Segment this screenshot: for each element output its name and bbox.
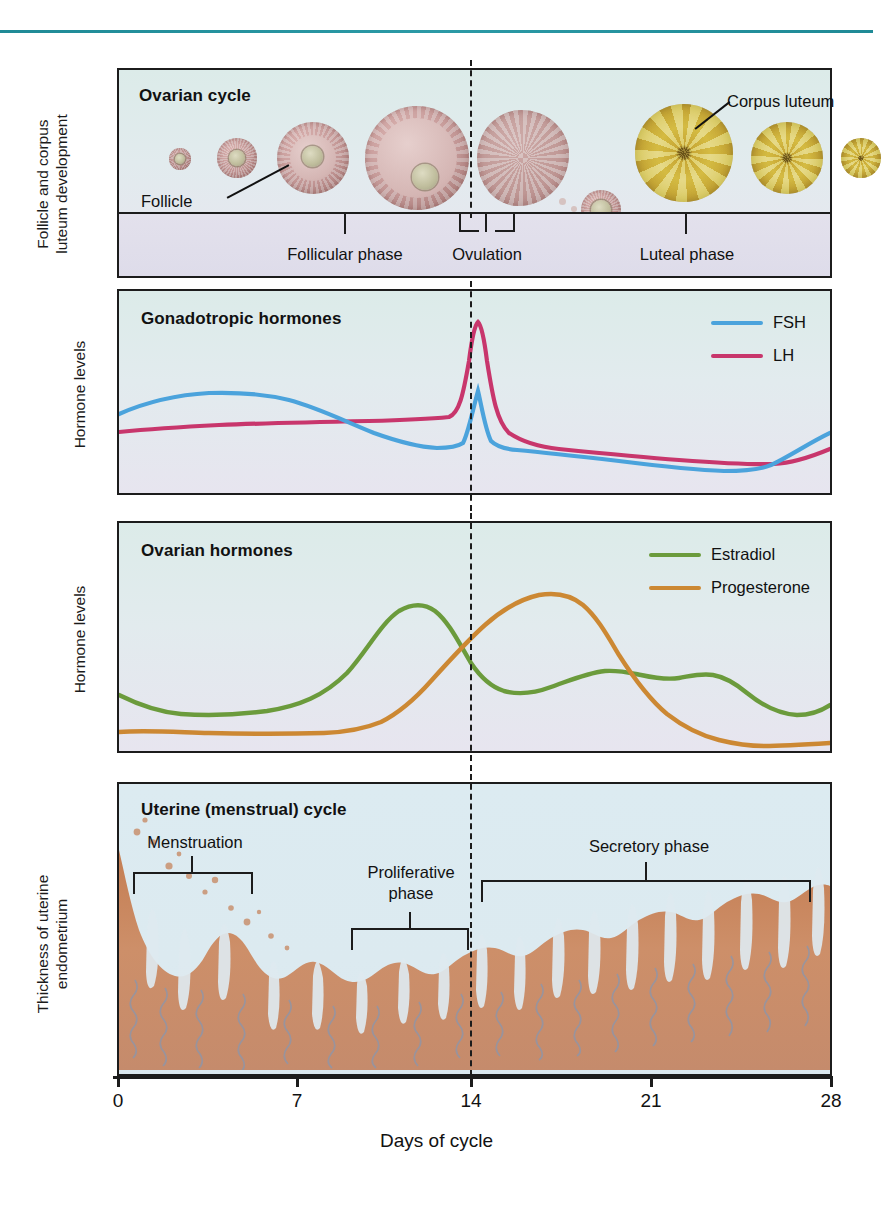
- ovarian-hormones-legend: Estradiol Progesterone: [649, 545, 810, 611]
- ovulation-dashed-line-panel1: [470, 60, 472, 218]
- bracket-menstruation-right-end: [251, 872, 253, 894]
- bracket-secretory-left-end: [481, 880, 483, 902]
- uterine-phase-label-proliferative-line2: phase: [347, 883, 475, 904]
- uterine-phase-label-secretory: Secretory phase: [551, 836, 747, 857]
- legend-item-progesterone: Progesterone: [649, 578, 810, 597]
- y-axis-label-panel1-line2: luteum development: [52, 89, 71, 279]
- x-tick-label-21: 21: [629, 1090, 673, 1112]
- ovulation-debris-1: [559, 198, 566, 205]
- legend-label-fsh: FSH: [773, 313, 806, 332]
- corpus-albicans: [841, 138, 881, 178]
- y-axis-label-panel4-line1: Thickness of uterine: [33, 844, 52, 1044]
- endometrium-svg: [119, 780, 830, 1070]
- panel-gonadotropic-hormones: Gonadotropic hormones FSH LH: [117, 289, 832, 495]
- callout-follicle-label: Follicle: [141, 192, 192, 211]
- corpus-luteum-stage-2: [751, 122, 823, 194]
- uterine-phase-label-menstruation: Menstruation: [125, 832, 265, 853]
- endometrium-illustration: [119, 780, 830, 1074]
- ovulation-tick: [485, 214, 487, 232]
- x-tick-7: [296, 1076, 299, 1087]
- x-tick-28: [830, 1076, 833, 1087]
- bracket-menstruation: [133, 872, 253, 894]
- oocyte: [229, 150, 245, 166]
- gonadotropic-legend: FSH LH: [711, 313, 806, 379]
- legend-swatch-estradiol: [649, 553, 701, 557]
- bracket-proliferative-left-end: [351, 928, 353, 950]
- x-tick-label-14: 14: [449, 1090, 493, 1112]
- panel-uterine-cycle: Uterine (menstrual) cycle: [117, 782, 832, 1076]
- bracket-proliferative-right-end: [467, 928, 469, 950]
- phase-label-follicular: Follicular phase: [237, 245, 453, 264]
- bracket-menstruation-bar: [133, 872, 253, 874]
- follicular-phase-tick: [344, 214, 346, 234]
- y-axis-label-panel3-text: Hormone levels: [70, 545, 89, 735]
- y-axis-label-panel4-line2: endometrium: [52, 844, 71, 1044]
- oocyte: [302, 146, 323, 167]
- ovulation-dashed-line-panel4: [470, 774, 472, 1076]
- bracket-proliferative: [351, 928, 469, 950]
- legend-label-estradiol: Estradiol: [711, 545, 775, 564]
- x-tick-0: [117, 1076, 120, 1087]
- bracket-secretory-bar: [481, 880, 811, 882]
- estradiol-curve: [119, 605, 830, 715]
- panel-uterine-title: Uterine (menstrual) cycle: [141, 800, 347, 820]
- uterine-phase-label-proliferative-line1: Proliferative: [347, 862, 475, 883]
- y-axis-label-panel1: Follicle and corpus luteum development: [33, 89, 71, 279]
- y-axis-label-panel4: Thickness of uterine endometrium: [33, 844, 71, 1044]
- ovulation-dashed-line-panel2: [470, 281, 472, 511]
- callout-corpus-luteum-label: Corpus luteum: [727, 92, 834, 111]
- y-axis-label-panel2-text: Hormone levels: [70, 300, 89, 490]
- follicle-stage-3: [277, 122, 349, 194]
- ovulation-bracket-left: [459, 212, 479, 232]
- legend-item-estradiol: Estradiol: [649, 545, 810, 564]
- follicle-stage-2: [217, 138, 257, 178]
- y-axis-label-panel3: Hormone levels: [70, 545, 89, 735]
- y-axis-label-panel1-line1: Follicle and corpus: [33, 89, 52, 279]
- x-axis-line: [117, 1076, 832, 1079]
- x-tick-14: [470, 1076, 473, 1087]
- bracket-proliferative-stem: [409, 912, 411, 928]
- follicle-stage-1: [169, 148, 191, 170]
- x-axis-title: Days of cycle: [0, 1130, 873, 1152]
- ovulation-dashed-line-panel3: [470, 513, 472, 771]
- x-tick-label-7: 7: [275, 1090, 319, 1112]
- phase-label-luteal: Luteal phase: [589, 245, 785, 264]
- top-divider-rule: [0, 30, 873, 33]
- bracket-secretory-right-end: [809, 880, 811, 902]
- y-axis-label-panel2: Hormone levels: [70, 300, 89, 490]
- legend-swatch-progesterone: [649, 586, 701, 590]
- fsh-curve: [119, 391, 830, 471]
- corpus-luteum-stage-1: [635, 104, 733, 202]
- luteal-phase-tick: [685, 214, 687, 234]
- panel-ovarian-cycle-title: Ovarian cycle: [139, 86, 251, 106]
- oocyte: [175, 154, 185, 164]
- bracket-menstruation-stem: [191, 856, 193, 872]
- legend-label-lh: LH: [773, 346, 794, 365]
- panel-gonadotropic-title: Gonadotropic hormones: [141, 309, 341, 329]
- bracket-proliferative-bar: [351, 928, 469, 930]
- x-tick-label-0: 0: [96, 1090, 140, 1112]
- legend-item-fsh: FSH: [711, 313, 806, 332]
- phase-label-ovulation: Ovulation: [425, 245, 549, 264]
- bracket-secretory: [481, 880, 811, 902]
- ovulation-bracket-right: [495, 212, 515, 232]
- uterine-phase-label-proliferative: Proliferative phase: [347, 862, 475, 904]
- legend-item-lh: LH: [711, 346, 806, 365]
- legend-swatch-fsh: [711, 321, 763, 325]
- panel-ovarian-cycle: Ovarian cycle: [117, 68, 832, 278]
- panel-ovarian-hormones: Ovarian hormones Estradiol Progesterone: [117, 521, 832, 753]
- legend-label-progesterone: Progesterone: [711, 578, 810, 597]
- x-tick-21: [650, 1076, 653, 1087]
- panel-ovarian-hormones-title: Ovarian hormones: [141, 541, 293, 561]
- x-tick-label-28: 28: [809, 1090, 853, 1112]
- legend-swatch-lh: [711, 354, 763, 358]
- bracket-secretory-stem: [645, 862, 647, 880]
- oocyte: [412, 164, 438, 190]
- follicle-stage-4: [365, 106, 469, 210]
- bracket-menstruation-left-end: [133, 872, 135, 894]
